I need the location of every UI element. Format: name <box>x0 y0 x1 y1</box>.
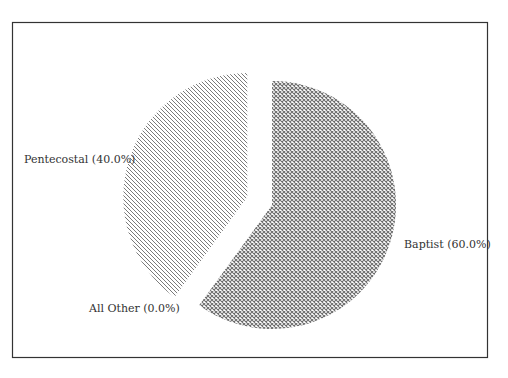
slice-label-pentecostal: Pentecostal (40.0%) <box>24 153 135 166</box>
pie-slice-pentecostal <box>123 73 247 297</box>
pie-chart: Baptist (60.0%) All Other (0.0%) Penteco… <box>0 0 508 378</box>
slice-label-baptist: Baptist (60.0%) <box>404 238 491 251</box>
pie-slices <box>123 73 396 329</box>
slice-label-all-other: All Other (0.0%) <box>88 302 180 315</box>
